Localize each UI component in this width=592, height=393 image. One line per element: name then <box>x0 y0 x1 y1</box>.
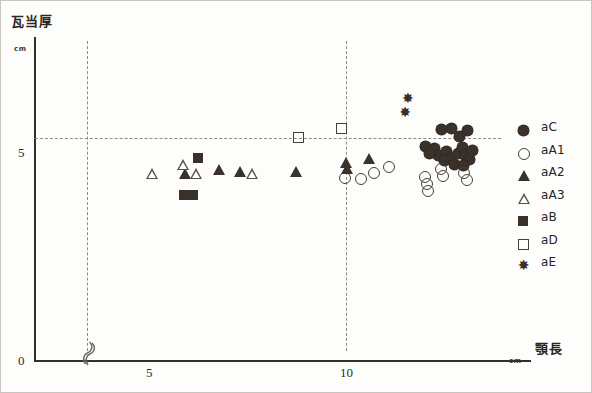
filled-circle-icon <box>517 123 531 137</box>
legend-item-aD[interactable]: aD <box>517 232 587 255</box>
x-axis-title: 顎長 <box>535 338 563 357</box>
gridline-horizontal <box>35 138 501 139</box>
data-point-aC <box>424 148 435 159</box>
legend-item-aA2[interactable]: aA2 <box>517 164 587 187</box>
data-point-aA2 <box>213 164 225 175</box>
legend-label: aE <box>541 255 556 269</box>
data-point-aC <box>439 155 450 166</box>
data-point-aA1 <box>458 167 470 179</box>
filled-square-icon <box>517 213 531 227</box>
data-point-aC <box>446 123 457 134</box>
data-point-aA1 <box>419 171 431 183</box>
data-point-aC <box>467 145 478 156</box>
legend-item-aE[interactable]: ✸aE <box>517 254 587 277</box>
open-circle-icon <box>517 146 531 160</box>
data-point-aC <box>453 148 464 159</box>
data-point-aA1 <box>368 167 380 179</box>
open-square-icon <box>517 236 531 250</box>
data-point-aA3 <box>246 168 258 179</box>
legend-label: aC <box>541 120 557 134</box>
gridline-vertical <box>346 41 347 351</box>
data-point-aA2 <box>341 163 353 174</box>
data-point-aC <box>458 160 469 171</box>
y-tick-5: 5 <box>18 145 25 161</box>
data-point-aA2 <box>234 166 246 177</box>
legend-item-aC[interactable]: aC <box>517 119 587 142</box>
data-point-aC <box>462 125 473 136</box>
axis-break-icon <box>79 341 101 367</box>
data-point-aA1 <box>435 163 447 175</box>
data-point-aA2 <box>290 166 302 177</box>
data-point-aC <box>420 141 431 152</box>
data-point-aC <box>457 142 468 153</box>
plot-area: ✸✸ <box>1 1 592 393</box>
data-point-aA2 <box>363 153 375 164</box>
data-point-aA1 <box>421 178 433 190</box>
legend-label: aA3 <box>541 188 565 202</box>
data-point-aC <box>429 143 440 154</box>
data-point-aC <box>454 131 465 142</box>
legend-item-aA3[interactable]: aA3 <box>517 187 587 210</box>
data-point-aA1 <box>355 173 367 185</box>
legend: aCaA1aA2aA3aBaD✸aE <box>517 119 587 277</box>
filled-triangle-icon <box>517 168 531 182</box>
y-axis-unit-label: cm <box>14 45 26 53</box>
data-point-aB <box>179 190 189 200</box>
data-point-aE: ✸ <box>399 106 412 119</box>
data-point-aC <box>433 150 444 161</box>
data-point-aB <box>188 190 198 200</box>
data-point-aC <box>460 150 471 161</box>
star-icon: ✸ <box>517 258 531 272</box>
data-point-aA1 <box>461 174 473 186</box>
legend-label: aD <box>541 233 558 247</box>
data-point-aA3 <box>190 168 202 179</box>
data-point-aC <box>464 154 475 165</box>
open-triangle-icon <box>517 191 531 205</box>
legend-item-aB[interactable]: aB <box>517 209 587 232</box>
data-point-aA2 <box>179 168 191 179</box>
legend-label: aA1 <box>541 143 565 157</box>
data-point-aB <box>193 153 203 163</box>
scatter-plot-figure: 瓦当厚 cm 顎長 cm 0 5 5 10 ✸✸ aCaA1aA2aA3aBaD… <box>0 0 592 393</box>
data-point-aA1 <box>437 170 449 182</box>
data-point-aC <box>436 124 447 135</box>
data-point-aC <box>449 159 460 170</box>
data-point-aA1 <box>383 161 395 173</box>
data-point-aE: ✸ <box>401 92 414 105</box>
x-axis-line <box>34 360 531 362</box>
data-point-aA1 <box>422 185 434 197</box>
data-point-aA3 <box>177 159 189 170</box>
data-point-aC <box>441 146 452 157</box>
legend-label: aB <box>541 210 557 224</box>
data-point-aC <box>446 152 457 163</box>
y-axis-title: 瓦当厚 <box>11 11 53 30</box>
data-point-aA3 <box>146 168 158 179</box>
legend-label: aA2 <box>541 165 565 179</box>
x-tick-10: 10 <box>340 365 353 381</box>
gridline-vertical <box>87 41 88 351</box>
x-tick-5: 5 <box>146 365 153 381</box>
legend-item-aA1[interactable]: aA1 <box>517 142 587 165</box>
y-tick-0: 0 <box>18 353 25 369</box>
y-axis-line <box>34 37 36 361</box>
